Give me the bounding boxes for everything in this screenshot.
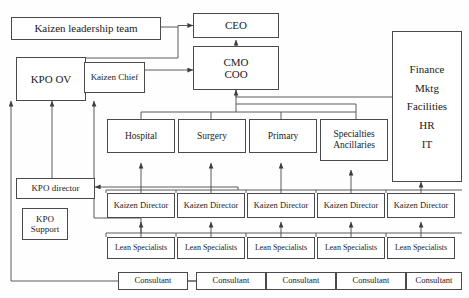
node-ceo[interactable]: CEO <box>193 13 279 38</box>
lean-specialists-2-label: Lean Specialists <box>178 244 244 253</box>
node-consultant-1[interactable]: Consultant <box>118 272 188 290</box>
consultant-3-label: Consultant <box>267 276 335 286</box>
consultant-2-label: Consultant <box>197 276 265 286</box>
node-cmo-coo[interactable]: CMO COO <box>193 46 279 90</box>
node-kaizen-director-1[interactable]: Kaizen Director <box>107 193 175 218</box>
kaizen-leadership-team-label: Kaizen leadership team <box>12 22 160 34</box>
kpo-support-label-line1: KPO <box>23 214 67 224</box>
lean-specialists-5-label: Lean Specialists <box>388 244 454 253</box>
coo-label: COO <box>194 68 278 80</box>
lean-specialists-3-label: Lean Specialists <box>248 244 314 253</box>
service-line-ancillaries-label: Ancillaries <box>321 140 387 151</box>
node-consultant-3[interactable]: Consultant <box>266 272 336 290</box>
node-kaizen-director-5[interactable]: Kaizen Director <box>387 193 455 218</box>
support-item-facilities: Facilities <box>393 100 461 112</box>
node-consultant-4[interactable]: Consultant <box>336 272 406 290</box>
node-kaizen-chief[interactable]: Kaizen Chief <box>84 62 145 93</box>
node-kpo-director[interactable]: KPO director <box>16 178 95 199</box>
cmo-label: CMO <box>194 56 278 68</box>
node-lean-specialists-1[interactable]: Lean Specialists <box>107 237 175 259</box>
support-item-finance: Finance <box>393 63 461 75</box>
node-kaizen-director-4[interactable]: Kaizen Director <box>317 193 385 218</box>
kaizen-director-3-label: Kaizen Director <box>248 201 314 211</box>
kaizen-director-2-label: Kaizen Director <box>178 201 244 211</box>
kaizen-director-1-label: Kaizen Director <box>108 201 174 211</box>
node-lean-specialists-5[interactable]: Lean Specialists <box>387 237 455 259</box>
node-support-functions-column[interactable]: Finance Mktg Facilities HR IT <box>392 31 462 182</box>
service-line-primary-label: Primary <box>250 131 316 142</box>
service-line-surgery-label: Surgery <box>179 131 245 142</box>
node-lean-specialists-4[interactable]: Lean Specialists <box>317 237 385 259</box>
kaizen-chief-label: Kaizen Chief <box>85 72 144 82</box>
consultant-5-label: Consultant <box>407 276 461 286</box>
node-kpo-ov[interactable]: KPO OV <box>16 57 86 101</box>
node-service-line-specialties-ancillaries[interactable]: Specialties Ancillaries <box>320 119 388 161</box>
consultant-1-label: Consultant <box>119 276 187 286</box>
kpo-ov-label: KPO OV <box>17 73 85 85</box>
lean-specialists-1-label: Lean Specialists <box>108 244 174 253</box>
consultant-4-label: Consultant <box>337 276 405 286</box>
support-item-mktg: Mktg <box>393 82 461 94</box>
org-chart-canvas: Kaizen leadership team CEO CMO COO KPO O… <box>0 0 469 298</box>
service-line-hospital-label: Hospital <box>108 131 174 142</box>
kpo-director-label: KPO director <box>17 183 94 193</box>
lean-specialists-4-label: Lean Specialists <box>318 244 384 253</box>
node-kaizen-leadership-team[interactable]: Kaizen leadership team <box>11 17 161 40</box>
ceo-label: CEO <box>194 19 278 31</box>
node-kpo-support[interactable]: KPO Support <box>22 208 68 240</box>
service-line-specialties-label: Specialties <box>321 129 387 140</box>
node-consultant-5[interactable]: Consultant <box>406 272 462 290</box>
kpo-support-label-line2: Support <box>23 224 67 234</box>
node-service-line-hospital[interactable]: Hospital <box>107 119 175 153</box>
node-service-line-surgery[interactable]: Surgery <box>178 119 246 153</box>
support-item-hr: HR <box>393 119 461 131</box>
kaizen-director-5-label: Kaizen Director <box>388 201 454 211</box>
node-consultant-2[interactable]: Consultant <box>196 272 266 290</box>
node-service-line-primary[interactable]: Primary <box>249 119 317 153</box>
kaizen-director-4-label: Kaizen Director <box>318 201 384 211</box>
node-lean-specialists-2[interactable]: Lean Specialists <box>177 237 245 259</box>
node-kaizen-director-2[interactable]: Kaizen Director <box>177 193 245 218</box>
node-lean-specialists-3[interactable]: Lean Specialists <box>247 237 315 259</box>
node-kaizen-director-3[interactable]: Kaizen Director <box>247 193 315 218</box>
support-item-it: IT <box>393 138 461 150</box>
